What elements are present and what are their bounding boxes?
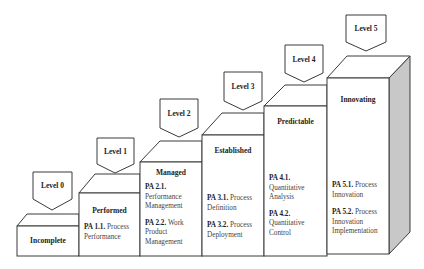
pa-item: PA 5.2. Process Innovation Implementatio… — [332, 208, 390, 237]
stage-title-established: Established — [202, 146, 264, 155]
predictable-top-face — [264, 85, 327, 106]
stage-title-predictable: Predictable — [264, 117, 327, 126]
stage-title-performed: Performed — [79, 206, 140, 215]
level-2-badge — [160, 99, 198, 137]
maturity-staircase-diagram: Level 0 Level 1 Level 2 Level 3 Level 4 … — [0, 0, 424, 269]
pa-item: PA 3.2. Process Deployment — [207, 221, 263, 240]
innovating-attributes: PA 5.1. Process Innovation PA 5.2. Proce… — [332, 181, 390, 244]
pa-item: PA 5.1. Process Innovation — [332, 181, 390, 200]
predictable-attributes: PA 4.1.Quantitative Analysis PA 4.2.Quan… — [269, 174, 325, 246]
stage-title-incomplete: Incomplete — [17, 236, 79, 245]
performed-top-face — [79, 174, 140, 193]
managed-attributes: PA 2.1.Performance Management PA 2.2. Wo… — [145, 183, 201, 255]
established-attributes: PA 3.1. Process Definition PA 3.2. Proce… — [207, 194, 263, 247]
stage-title-innovating: Innovating — [327, 95, 389, 104]
managed-top-face — [140, 141, 202, 162]
level-1-label: Level 1 — [97, 147, 134, 156]
pa-item: PA 3.1. Process Definition — [207, 194, 263, 213]
level-0-label: Level 0 — [33, 181, 72, 190]
pa-item: PA 2.2. Work Product Management — [145, 219, 201, 248]
performed-attributes: PA 1.1. Process Performance — [84, 223, 140, 249]
pa-item: PA 2.1.Performance Management — [145, 183, 201, 212]
level-5-label: Level 5 — [346, 24, 386, 33]
level-2-label: Level 2 — [160, 109, 198, 118]
established-top-face — [202, 113, 264, 135]
stage-title-managed: Managed — [140, 168, 202, 177]
incomplete-top-face — [17, 214, 79, 226]
level-3-badge — [224, 72, 262, 110]
pa-item: PA 4.1.Quantitative Analysis — [269, 174, 325, 203]
innovating-side-face — [389, 56, 410, 254]
pa-item: PA 1.1. Process Performance — [84, 223, 140, 242]
level-4-label: Level 4 — [285, 55, 323, 64]
level-0-badge — [33, 172, 72, 210]
pa-item: PA 4.2.Quantitative Control — [269, 210, 325, 239]
level-3-label: Level 3 — [224, 82, 262, 91]
level-5-badge — [346, 15, 386, 51]
